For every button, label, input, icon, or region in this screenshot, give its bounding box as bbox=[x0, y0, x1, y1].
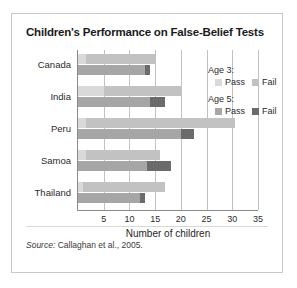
segment-age3-pass bbox=[78, 118, 86, 128]
legend-group-title: Age 3: bbox=[208, 65, 277, 75]
segment-age3-pass bbox=[78, 86, 104, 96]
source-text: Callaghan et al., 2005. bbox=[58, 240, 143, 250]
bar-group-samoa bbox=[78, 150, 258, 178]
y-axis-label-canada: Canada bbox=[38, 60, 71, 70]
segment-age5-pass bbox=[78, 161, 147, 171]
x-axis-line bbox=[77, 210, 258, 211]
legend-swatch-icon bbox=[252, 79, 259, 86]
segment-age5-pass bbox=[78, 129, 181, 139]
x-tick-label-30: 30 bbox=[227, 214, 237, 224]
legend-group-title: Age 5: bbox=[208, 94, 277, 104]
segment-age3-pass bbox=[78, 150, 86, 160]
bar-age5-thailand bbox=[78, 193, 145, 203]
segment-age3-fail bbox=[83, 182, 165, 192]
y-axis-label-thailand: Thailand bbox=[35, 188, 71, 198]
segment-age5-pass bbox=[78, 97, 150, 107]
source-note: Source: Callaghan et al., 2005. bbox=[26, 240, 143, 250]
segment-age3-pass bbox=[78, 54, 86, 64]
legend-swatch-icon bbox=[215, 108, 222, 115]
legend-label: Fail bbox=[262, 106, 277, 116]
x-axis-title: Number of children bbox=[126, 228, 210, 239]
legend-items: PassFail bbox=[208, 106, 277, 116]
legend-label: Pass bbox=[225, 77, 245, 87]
legend-swatch-icon bbox=[252, 108, 259, 115]
y-axis-label-samoa: Samoa bbox=[41, 156, 71, 166]
x-tick-label-10: 10 bbox=[124, 214, 134, 224]
legend-swatch-icon bbox=[215, 79, 222, 86]
segment-age5-fail bbox=[147, 161, 170, 171]
y-axis-label-peru: Peru bbox=[51, 124, 71, 134]
chart-title: Children's Performance on False-Belief T… bbox=[26, 26, 264, 38]
x-tick-label-25: 25 bbox=[202, 214, 212, 224]
bar-age5-samoa bbox=[78, 161, 171, 171]
segment-age5-fail bbox=[145, 65, 150, 75]
x-tick-label-15: 15 bbox=[150, 214, 160, 224]
source-prefix: Source: bbox=[26, 240, 55, 250]
legend-item-pass: Pass bbox=[215, 106, 245, 116]
legend-group-1: Age 5:PassFail bbox=[208, 94, 277, 116]
bar-group-thailand bbox=[78, 182, 258, 210]
x-tick-label-35: 35 bbox=[253, 214, 263, 224]
segment-age5-fail bbox=[140, 193, 145, 203]
segment-age3-fail bbox=[86, 150, 161, 160]
x-tick-label-5: 5 bbox=[101, 214, 106, 224]
source-divider bbox=[26, 226, 268, 227]
bar-age5-peru bbox=[78, 129, 194, 139]
x-tick-label-20: 20 bbox=[176, 214, 186, 224]
legend-label: Fail bbox=[262, 77, 277, 87]
legend-item-fail: Fail bbox=[252, 77, 277, 87]
legend-item-pass: Pass bbox=[215, 77, 245, 87]
bar-age5-india bbox=[78, 97, 165, 107]
bar-age3-india bbox=[78, 86, 181, 96]
bar-age3-canada bbox=[78, 54, 155, 64]
segment-age5-fail bbox=[181, 129, 194, 139]
bar-age3-samoa bbox=[78, 150, 160, 160]
segment-age5-pass bbox=[78, 65, 145, 75]
legend-item-fail: Fail bbox=[252, 106, 277, 116]
chart-card: Children's Performance on False-Belief T… bbox=[11, 13, 283, 273]
segment-age5-fail bbox=[150, 97, 165, 107]
legend-items: PassFail bbox=[208, 77, 277, 87]
legend-group-0: Age 3:PassFail bbox=[208, 65, 277, 87]
segment-age5-pass bbox=[78, 193, 140, 203]
y-axis-label-india: India bbox=[50, 92, 71, 102]
legend-label: Pass bbox=[225, 106, 245, 116]
segment-age3-fail bbox=[104, 86, 181, 96]
segment-age3-fail bbox=[86, 54, 155, 64]
bar-age3-thailand bbox=[78, 182, 165, 192]
chart-legend: Age 3:PassFailAge 5:PassFail bbox=[208, 65, 277, 123]
bar-age5-canada bbox=[78, 65, 150, 75]
